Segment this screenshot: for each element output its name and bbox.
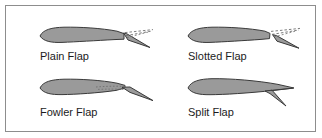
airfoil-body	[188, 27, 270, 42]
split-flap-element	[265, 90, 286, 106]
airfoil-body	[40, 79, 125, 94]
panel-plain-flap: Plain Flap	[18, 14, 168, 72]
panel-label-plain-flap: Plain Flap	[40, 50, 89, 62]
figure-border: Plain Flap Slotted Flap	[5, 5, 316, 132]
panel-split-flap: Split Flap	[166, 68, 316, 128]
panel-slotted-flap: Slotted Flap	[166, 14, 316, 72]
slotted-flap-illustration	[166, 14, 316, 72]
airfoil-body	[40, 27, 124, 42]
panel-fowler-flap: Fowler Flap	[18, 68, 168, 128]
fowler-flap-illustration	[18, 68, 168, 128]
slotted-flap-element	[273, 35, 300, 49]
panel-label-slotted-flap: Slotted Flap	[188, 50, 247, 62]
panel-label-split-flap: Split Flap	[188, 106, 234, 118]
undeflected-flap-upper-guide	[125, 30, 153, 33]
airfoil-body	[188, 79, 294, 95]
panel-label-fowler-flap: Fowler Flap	[40, 106, 97, 118]
extended-fowler-flap	[122, 87, 153, 101]
flap-types-figure: Plain Flap Slotted Flap	[0, 0, 322, 138]
split-flap-illustration	[166, 68, 316, 128]
plain-flap-illustration	[18, 14, 168, 72]
